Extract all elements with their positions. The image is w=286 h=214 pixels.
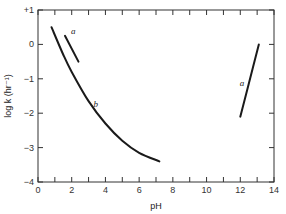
x-tick-label: 0: [35, 185, 40, 195]
y-tick-label: −1: [24, 74, 34, 84]
curve-label: a: [71, 26, 76, 36]
x-axis-label: pH: [150, 201, 162, 211]
curve-label: b: [94, 99, 99, 109]
y-tick-label: −3: [24, 143, 34, 153]
ph-rate-profile-chart: 02468101214+10−1−2−3−4 aba pH log k (hr⁻…: [0, 0, 286, 214]
curve-label: a: [240, 78, 245, 88]
x-tick-label: 14: [269, 185, 279, 195]
x-tick-label: 10: [202, 185, 212, 195]
y-tick-label: +1: [24, 5, 34, 15]
axis-ticks: 02468101214+10−1−2−3−4: [24, 5, 279, 195]
x-tick-label: 2: [69, 185, 74, 195]
y-axis-label: log k (hr⁻¹): [3, 74, 13, 118]
curve-a: [65, 36, 78, 62]
y-tick-label: −4: [24, 177, 34, 187]
x-tick-label: 4: [103, 185, 108, 195]
x-tick-label: 8: [170, 185, 175, 195]
curve-b: [51, 27, 159, 161]
x-tick-label: 6: [137, 185, 142, 195]
x-tick-label: 12: [235, 185, 245, 195]
y-tick-label: −2: [24, 108, 34, 118]
data-curves: aba: [51, 26, 258, 162]
y-tick-label: 0: [29, 39, 34, 49]
